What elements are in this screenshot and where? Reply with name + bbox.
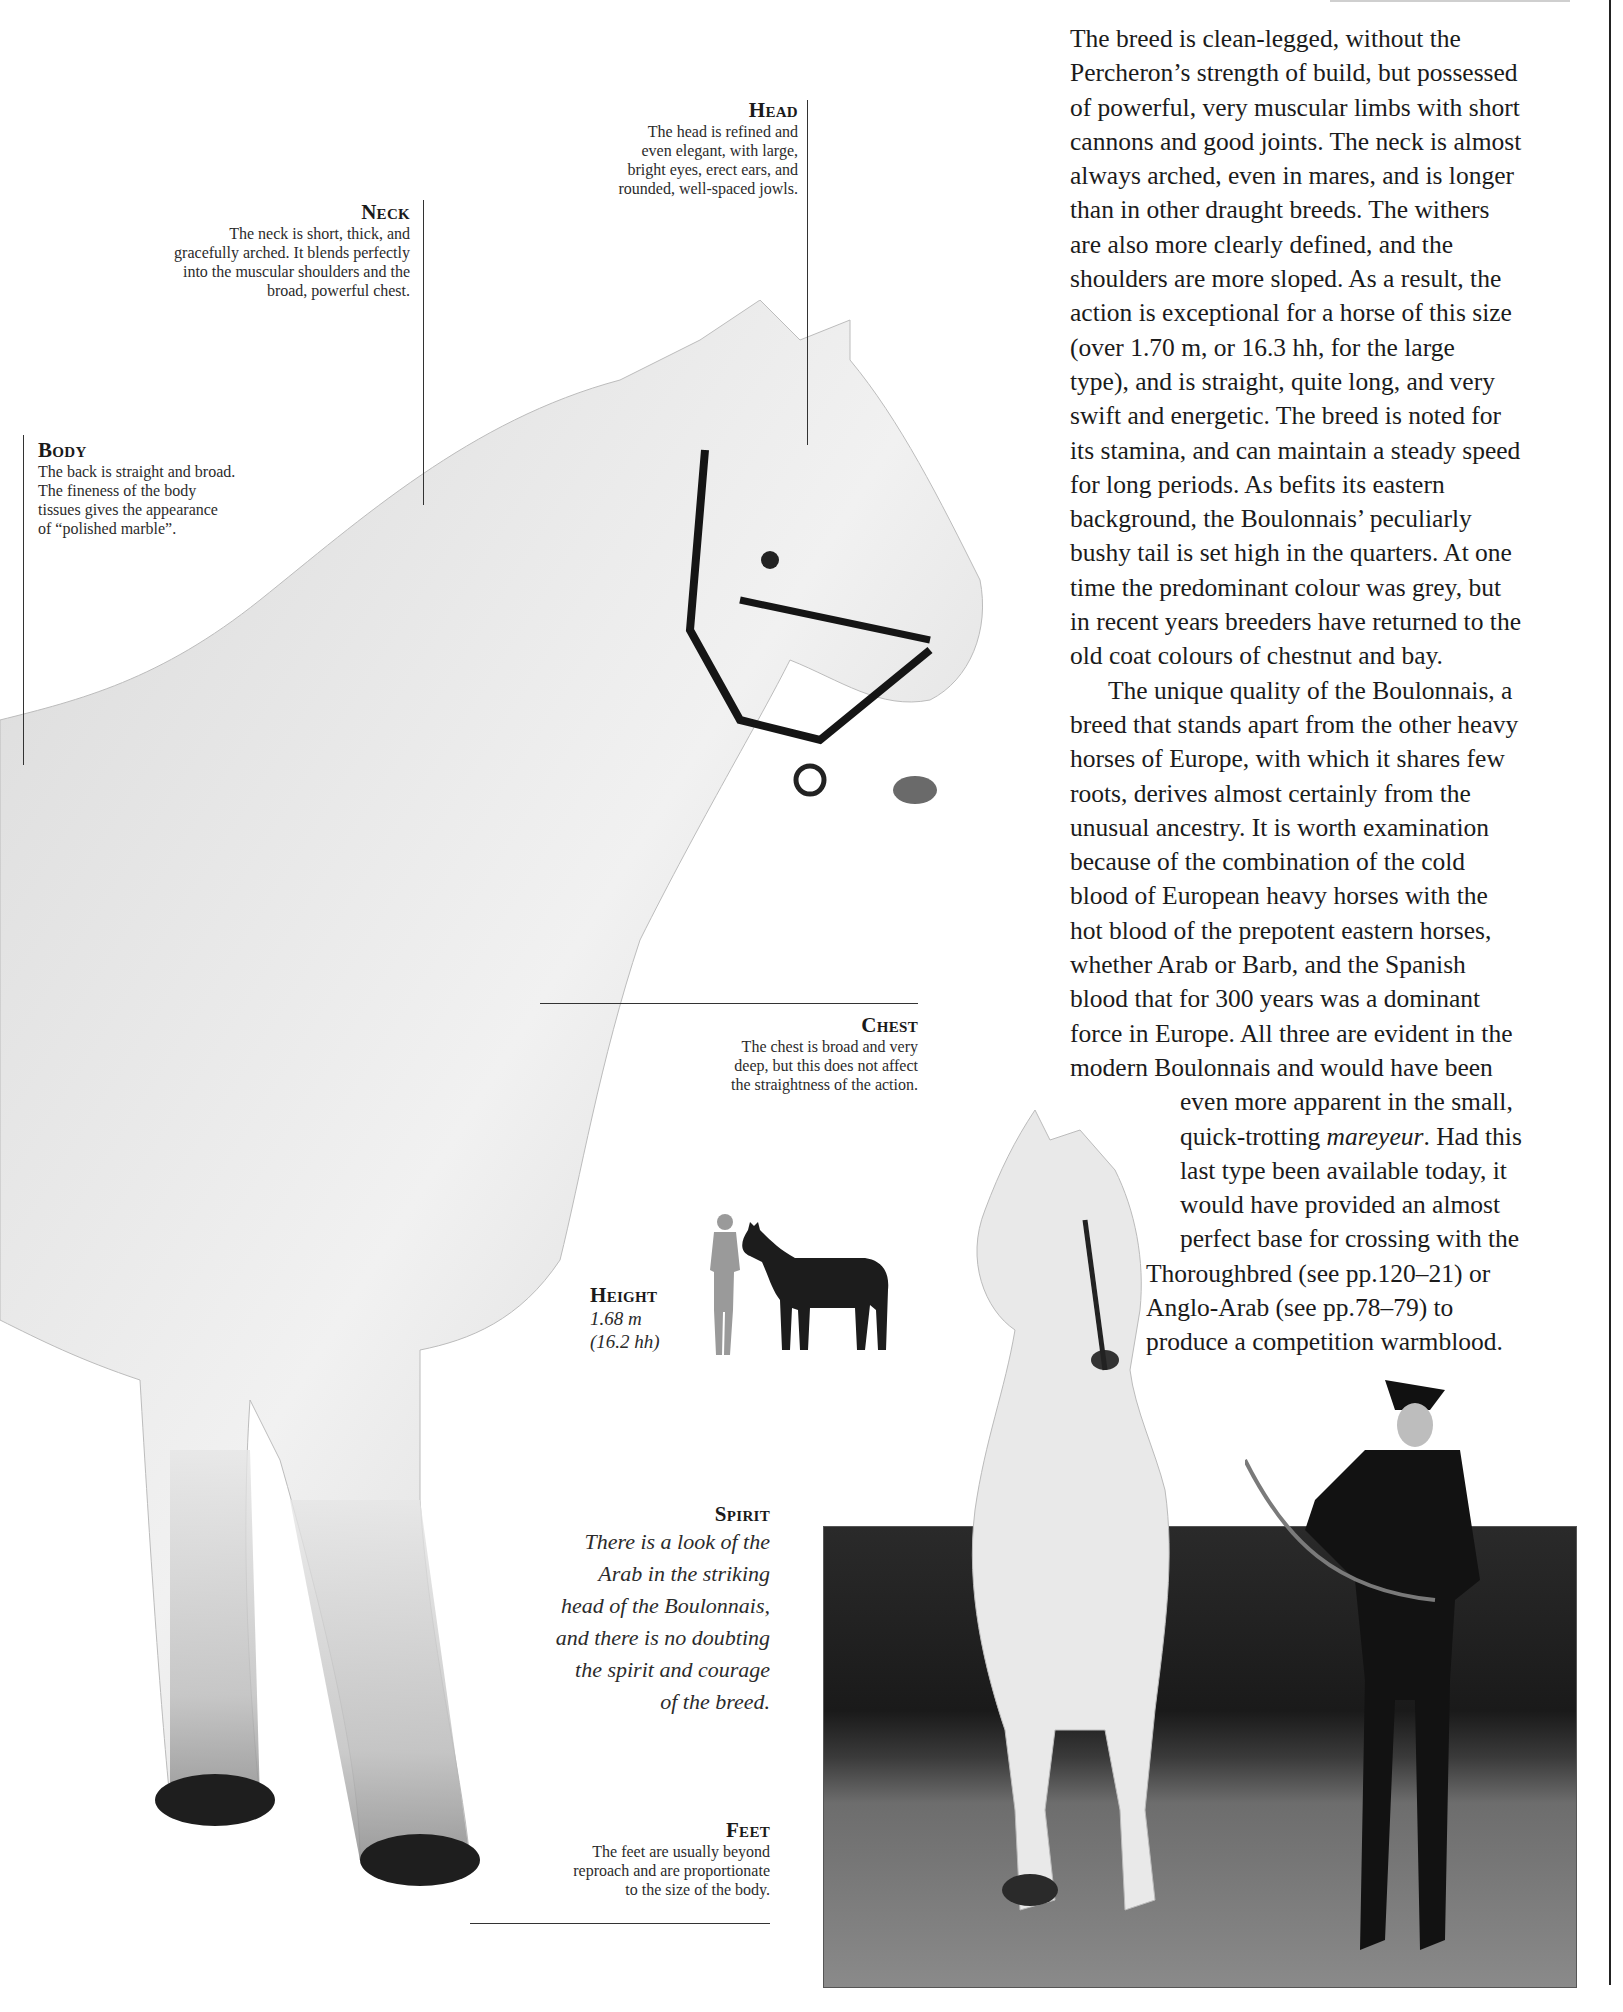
text-line: Percheron’s strength of build, but posse… bbox=[1070, 56, 1590, 90]
header-rule bbox=[1330, 0, 1570, 2]
text-line: action is exceptional for a horse of thi… bbox=[1070, 296, 1590, 330]
text-line: in recent years breeders have returned t… bbox=[1070, 605, 1590, 639]
callout-feet-leader-line bbox=[470, 1923, 770, 1924]
callout-spirit: Spirit There is a look of the Arab in th… bbox=[520, 1502, 770, 1718]
text-line: for long periods. As befits its eastern bbox=[1070, 468, 1590, 502]
callout-neck-title: Neck bbox=[110, 200, 410, 224]
text-line: and there is no doubting bbox=[520, 1622, 770, 1654]
handler-figure-image bbox=[1245, 1380, 1505, 1980]
text-line: head of the Boulonnais, bbox=[520, 1590, 770, 1622]
callout-spirit-text: There is a look of the Arab in the strik… bbox=[520, 1526, 770, 1718]
callout-height-title: Height bbox=[590, 1283, 710, 1307]
text-line: of “polished marble”. bbox=[38, 519, 298, 538]
text-line: to the size of the body. bbox=[520, 1880, 770, 1899]
text-line: its stamina, and can maintain a steady s… bbox=[1070, 434, 1590, 468]
callout-chest-leader-line bbox=[540, 1003, 918, 1004]
text-line: The back is straight and broad. bbox=[38, 462, 298, 481]
text-line: breed that stands apart from the other h… bbox=[1070, 708, 1590, 742]
callout-neck-text: The neck is short, thick, and gracefully… bbox=[110, 224, 410, 300]
page-border bbox=[1609, 0, 1611, 1985]
italic-term: mareyeur bbox=[1327, 1122, 1424, 1151]
callout-chest-text: The chest is broad and very deep, but th… bbox=[660, 1037, 918, 1094]
callout-neck: Neck The neck is short, thick, and grace… bbox=[110, 200, 410, 300]
text-line: shoulders are more sloped. As a result, … bbox=[1070, 262, 1590, 296]
callout-feet-title: Feet bbox=[520, 1818, 770, 1842]
text-line: of the breed. bbox=[520, 1686, 770, 1718]
rearing-horse-image bbox=[905, 1110, 1225, 1970]
text-line: even elegant, with large, bbox=[560, 141, 798, 160]
text-line: unusual ancestry. It is worth examinatio… bbox=[1070, 811, 1590, 845]
callout-feet-text: The feet are usually beyond reproach and… bbox=[520, 1842, 770, 1899]
callout-head-text: The head is refined and even elegant, wi… bbox=[560, 122, 798, 198]
text-line: The chest is broad and very bbox=[660, 1037, 918, 1056]
text-line: swift and energetic. The breed is noted … bbox=[1070, 399, 1590, 433]
text-line: The head is refined and bbox=[560, 122, 798, 141]
callout-chest-title: Chest bbox=[660, 1013, 918, 1037]
text-line: background, the Boulonnais’ peculiarly bbox=[1070, 502, 1590, 536]
callout-spirit-title: Spirit bbox=[520, 1502, 770, 1526]
text-line: force in Europe. All three are evident i… bbox=[1070, 1017, 1590, 1051]
text-fragment: . Had this bbox=[1423, 1122, 1521, 1151]
text-line: The feet are usually beyond bbox=[520, 1842, 770, 1861]
height-comparison-silhouettes bbox=[700, 1200, 900, 1360]
text-line: hot blood of the prepotent eastern horse… bbox=[1070, 914, 1590, 948]
callout-feet: Feet The feet are usually beyond reproac… bbox=[520, 1818, 770, 1899]
text-line: The unique quality of the Boulonnais, a bbox=[1070, 674, 1590, 708]
height-hands: (16.2 hh) bbox=[590, 1330, 710, 1353]
text-line: broad, powerful chest. bbox=[110, 281, 410, 300]
text-line: are also more clearly defined, and the bbox=[1070, 228, 1590, 262]
text-line: The breed is clean-legged, without the bbox=[1070, 22, 1590, 56]
text-line: the straightness of the action. bbox=[660, 1075, 918, 1094]
callout-height: Height 1.68 m (16.2 hh) bbox=[590, 1283, 710, 1353]
text-line: reproach and are proportionate bbox=[520, 1861, 770, 1880]
text-line: whether Arab or Barb, and the Spanish bbox=[1070, 948, 1590, 982]
action-photo bbox=[815, 1490, 1577, 1986]
text-line: time the predominant colour was grey, bu… bbox=[1070, 571, 1590, 605]
text-line: of powerful, very muscular limbs with sh… bbox=[1070, 91, 1590, 125]
callout-body-text: The back is straight and broad. The fine… bbox=[38, 462, 298, 538]
callout-chest: Chest The chest is broad and very deep, … bbox=[660, 1013, 918, 1094]
text-line: bright eyes, erect ears, and bbox=[560, 160, 798, 179]
text-line: into the muscular shoulders and the bbox=[110, 262, 410, 281]
article-paragraph-1: The breed is clean-legged, without the P… bbox=[1070, 22, 1590, 674]
text-line: tissues gives the appearance bbox=[38, 500, 298, 519]
text-line: the spirit and courage bbox=[520, 1654, 770, 1686]
text-line: old coat colours of chestnut and bay. bbox=[1070, 639, 1590, 673]
text-line: The neck is short, thick, and bbox=[110, 224, 410, 243]
callout-head-title: Head bbox=[560, 98, 798, 122]
text-line: Arab in the striking bbox=[520, 1558, 770, 1590]
horse-silhouette-icon bbox=[742, 1222, 888, 1350]
text-line: The fineness of the body bbox=[38, 481, 298, 500]
height-metric: 1.68 m bbox=[590, 1307, 710, 1330]
text-line: because of the combination of the cold bbox=[1070, 845, 1590, 879]
text-line: horses of Europe, with which it shares f… bbox=[1070, 742, 1590, 776]
text-line: bushy tail is set high in the quarters. … bbox=[1070, 536, 1590, 570]
callout-head-leader-line bbox=[807, 100, 808, 445]
text-line: than in other draught breeds. The wither… bbox=[1070, 193, 1590, 227]
callout-head: Head The head is refined and even elegan… bbox=[560, 98, 798, 198]
text-line: modern Boulonnais and would have been bbox=[1070, 1051, 1590, 1085]
text-line: blood of European heavy horses with the bbox=[1070, 879, 1590, 913]
text-line: cannons and good joints. The neck is alm… bbox=[1070, 125, 1590, 159]
text-line: (over 1.70 m, or 16.3 hh, for the large bbox=[1070, 331, 1590, 365]
text-line: always arched, even in mares, and is lon… bbox=[1070, 159, 1590, 193]
human-silhouette-icon bbox=[710, 1214, 740, 1355]
callout-body: Body The back is straight and broad. The… bbox=[38, 438, 298, 538]
text-line: roots, derives almost certainly from the bbox=[1070, 777, 1590, 811]
text-line: There is a look of the bbox=[520, 1526, 770, 1558]
callout-body-leader-line bbox=[23, 435, 24, 765]
text-line: deep, but this does not affect bbox=[660, 1056, 918, 1075]
text-line: blood that for 300 years was a dominant bbox=[1070, 982, 1590, 1016]
text-line: gracefully arched. It blends perfectly bbox=[110, 243, 410, 262]
callout-body-title: Body bbox=[38, 438, 298, 462]
callout-neck-leader-line bbox=[423, 200, 424, 505]
text-line: rounded, well-spaced jowls. bbox=[560, 179, 798, 198]
text-line: type), and is straight, quite long, and … bbox=[1070, 365, 1590, 399]
